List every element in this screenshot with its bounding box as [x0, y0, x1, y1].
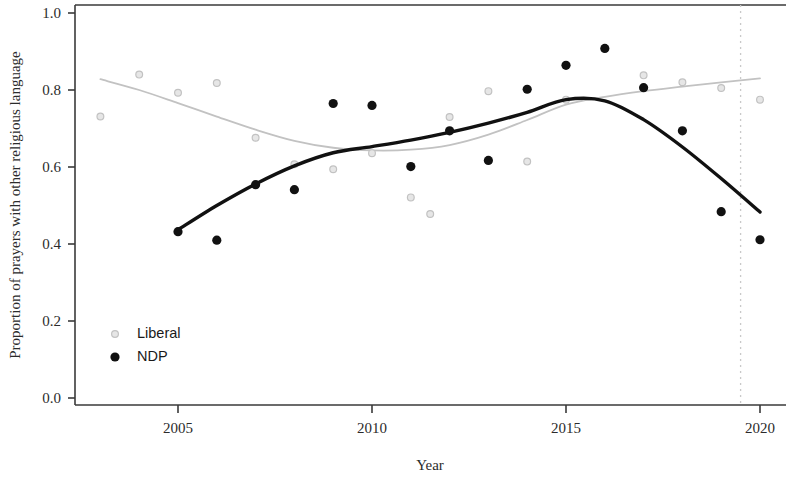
plot-background [0, 0, 786, 483]
data-point-ndp [251, 180, 260, 189]
data-point-liberal [640, 72, 647, 79]
y-axis-title: Proportion of prayers with other religio… [7, 51, 23, 359]
data-point-ndp [212, 236, 221, 245]
data-point-liberal [175, 89, 182, 96]
data-point-liberal [757, 96, 764, 103]
data-point-liberal [97, 113, 104, 120]
data-point-ndp [639, 83, 648, 92]
data-point-ndp [484, 156, 493, 165]
x-tick-label: 2015 [551, 420, 581, 436]
legend-label-liberal: Liberal [137, 325, 181, 341]
y-tick-label: 0.2 [42, 313, 61, 329]
data-point-ndp [290, 185, 299, 194]
y-tick-label: 0.8 [42, 82, 61, 98]
data-point-liberal [485, 88, 492, 95]
data-point-liberal [427, 211, 434, 218]
data-point-ndp [445, 126, 454, 135]
x-tick-label: 2005 [163, 420, 193, 436]
data-point-liberal [524, 158, 531, 165]
data-point-ndp [678, 126, 687, 135]
data-point-liberal [252, 134, 259, 141]
x-axis-title: Year [416, 457, 444, 473]
data-point-liberal [679, 79, 686, 86]
data-point-liberal [446, 114, 453, 121]
data-point-liberal [369, 150, 376, 157]
data-point-ndp [600, 44, 609, 53]
data-point-ndp [561, 61, 570, 70]
legend-label-ndp: NDP [137, 348, 168, 364]
legend-marker-liberal [112, 331, 119, 338]
y-tick-label: 1.0 [42, 5, 61, 21]
data-point-liberal [718, 85, 725, 92]
y-tick-label: 0.4 [42, 236, 61, 252]
data-point-ndp [329, 99, 338, 108]
data-point-liberal [407, 194, 414, 201]
legend-marker-ndp [110, 352, 119, 361]
y-tick-label: 0.6 [42, 159, 61, 175]
data-point-liberal [136, 71, 143, 78]
x-tick-label: 2010 [357, 420, 387, 436]
data-point-liberal [213, 80, 220, 87]
data-point-ndp [406, 162, 415, 171]
data-point-ndp [173, 227, 182, 236]
chart-figure: 0.00.20.40.60.81.02005201020152020YearPr… [0, 0, 786, 483]
data-point-ndp [367, 101, 376, 110]
data-point-ndp [755, 235, 764, 244]
data-point-liberal [330, 166, 337, 173]
y-tick-label: 0.0 [42, 390, 61, 406]
x-tick-label: 2020 [745, 420, 775, 436]
data-point-ndp [523, 85, 532, 94]
scatter-plot-svg: 0.00.20.40.60.81.02005201020152020YearPr… [0, 0, 786, 483]
data-point-ndp [717, 207, 726, 216]
